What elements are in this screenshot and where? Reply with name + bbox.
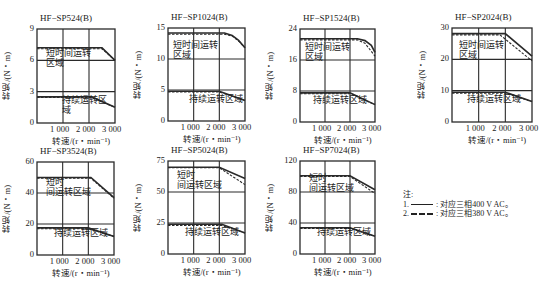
x-tick-label: 3 000 (362, 123, 381, 133)
y-tick-label: 0 (293, 248, 297, 258)
short-term-region-label: 短时间运转区域 (45, 48, 92, 68)
y-axis-label: 转矩/(N・m) (264, 184, 276, 232)
x-axis-label: 转速/(r・min⁻¹) (314, 265, 372, 277)
legend-text: : 对应三相380 V AC。 (436, 209, 513, 219)
torque-chart: HF−SP7024(B)040801201 0002 0003 000转矩/(N… (300, 161, 375, 254)
x-axis-label: 转速/(r・min⁻¹) (52, 134, 110, 146)
y-tick-label: 5 (161, 84, 165, 94)
y-tick-label: 75 (157, 155, 166, 165)
y-tick-label: 80 (289, 186, 298, 196)
short-term-region-label: 短时间运转区域 (308, 173, 355, 193)
solid-line-swatch-icon (411, 204, 433, 205)
y-tick-label: 9 (30, 23, 34, 33)
y-tick-label: 0 (30, 117, 34, 127)
torque-chart: HF−SP1024(B)0510151 0002 0003 000转矩/(N・m… (168, 28, 245, 121)
chart-title: HF−SP2024(B) (455, 12, 512, 22)
x-tick-label: 1 000 (312, 123, 331, 133)
legend-item-400v: 1. : 对应三相400 V AC。 (403, 200, 513, 210)
y-tick-label: 15 (157, 22, 166, 32)
y-tick-label: 3 (30, 86, 34, 96)
short-term-region-label: 短时间运转区域 (172, 40, 219, 60)
y-tick-label: 0 (161, 248, 165, 258)
chart-title: HF−SP7024(B) (303, 145, 360, 155)
x-tick-label: 1 000 (466, 123, 485, 133)
y-tick-label: 0 (293, 116, 297, 126)
y-axis-label: 转矩/(N・m) (1, 185, 13, 233)
x-axis-label: 转速/(r・min⁻¹) (468, 133, 526, 145)
chart-title: HF−SP1024(B) (171, 12, 228, 22)
x-axis-label: 转速/(r・min⁻¹) (52, 266, 110, 278)
x-tick-label: 1 000 (50, 124, 69, 134)
x-tick-label: 1 000 (181, 122, 200, 132)
legend-index: 2. (403, 209, 409, 219)
x-tick-label: 2 000 (337, 123, 356, 133)
y-tick-label: 120 (284, 155, 297, 165)
legend: 注: 1. : 对应三相400 V AC。 2. : 对应三相380 V AC。 (403, 190, 513, 219)
y-tick-label: 24 (289, 23, 298, 33)
legend-index: 1. (403, 200, 409, 210)
continuous-region-label: 持续运转区域 (316, 227, 372, 237)
x-tick-label: 2 000 (75, 256, 94, 266)
legend-title: 注: (403, 190, 513, 200)
continuous-region-label: 持续运转区域 (466, 94, 522, 104)
y-tick-label: 0 (30, 249, 34, 259)
torque-chart: HF−SP5024(B)02550751 0002 0003 000转矩/(N・… (168, 161, 245, 254)
y-axis-label: 转矩/(N・m) (1, 52, 13, 100)
y-tick-label: 10 (157, 53, 166, 63)
y-tick-label: 30 (441, 22, 450, 32)
y-tick-label: 50 (157, 186, 166, 196)
x-tick-label: 2 000 (337, 255, 356, 265)
y-tick-label: 10 (441, 85, 450, 95)
x-tick-label: 2 000 (492, 123, 511, 133)
short-term-region-label: 短时间运转区域 (176, 170, 223, 190)
torque-chart: HF−SP3524(B)02040601 0002 0003 000转矩/(N・… (37, 162, 114, 255)
x-tick-label: 1 000 (50, 256, 69, 266)
y-tick-label: 25 (157, 217, 166, 227)
x-axis-label: 转速/(r・min⁻¹) (314, 133, 372, 145)
y-tick-label: 20 (441, 53, 450, 63)
y-tick-label: 40 (289, 217, 298, 227)
continuous-region-label: 持续运转区域 (188, 94, 244, 104)
short-term-region-label: 短时间运转区域 (45, 177, 92, 197)
y-tick-label: 6 (30, 54, 34, 64)
y-tick-label: 40 (26, 187, 35, 197)
legend-item-380v: 2. : 对应三相380 V AC。 (403, 209, 513, 219)
x-tick-label: 3 000 (101, 256, 120, 266)
y-tick-label: 0 (445, 116, 449, 126)
short-term-region-label: 短时间运转区域 (458, 40, 505, 60)
x-tick-label: 1 000 (312, 255, 331, 265)
chart-plot-area (37, 162, 114, 255)
chart-title: HF−SP3524(B) (40, 146, 97, 156)
y-tick-label: 8 (293, 85, 297, 95)
chart-title: HF−SP1524(B) (303, 13, 360, 23)
continuous-region-label: 持续运转区域 (312, 95, 368, 105)
x-axis-label: 转速/(r・min⁻¹) (183, 132, 241, 144)
torque-chart: HF−SP2024(B)01020301 0002 0003 000转矩/(N・… (452, 28, 532, 122)
x-tick-label: 3 000 (232, 122, 251, 132)
x-tick-label: 3 000 (519, 123, 538, 133)
y-axis-label: 转矩/(N・m) (416, 51, 428, 99)
continuous-region-label: 持续运转区域 (61, 95, 115, 115)
x-tick-label: 2 000 (206, 255, 225, 265)
torque-chart: HF−SP524(B)03691 0002 0003 000转矩/(N・m)转速… (37, 29, 115, 123)
dashed-line-swatch-icon (411, 213, 433, 215)
x-tick-label: 3 000 (362, 255, 381, 265)
chart-frame (37, 162, 114, 255)
chart-title: HF−SP524(B) (40, 13, 92, 23)
x-tick-label: 2 000 (206, 122, 225, 132)
y-axis-label: 转矩/(N・m) (132, 184, 144, 232)
y-axis-label: 转矩/(N・m) (264, 52, 276, 100)
chart-title: HF−SP5024(B) (171, 145, 228, 155)
y-axis-label: 转矩/(N・m) (132, 51, 144, 99)
continuous-region-label: 持续运转区域 (53, 228, 109, 238)
y-tick-label: 20 (26, 218, 35, 228)
x-tick-label: 1 000 (181, 255, 200, 265)
x-tick-label: 3 000 (232, 255, 251, 265)
y-tick-label: 16 (289, 54, 298, 64)
y-tick-label: 60 (26, 156, 35, 166)
legend-text: : 对应三相400 V AC。 (436, 200, 513, 210)
continuous-region-label: 持续运转区域 (184, 227, 240, 237)
x-tick-label: 2 000 (76, 124, 95, 134)
x-axis-label: 转速/(r・min⁻¹) (183, 265, 241, 277)
torque-chart: HF−SP1524(B)0816241 0002 0003 000转矩/(N・m… (300, 29, 375, 122)
